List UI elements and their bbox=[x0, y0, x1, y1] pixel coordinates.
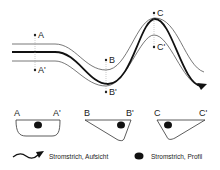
flow-arrow-icon bbox=[197, 83, 207, 90]
point-c-prime-marker bbox=[153, 46, 155, 48]
point-a-prime-label: A' bbox=[38, 65, 46, 75]
section-b-left-label: B bbox=[84, 108, 90, 118]
cross-section-c: C C' bbox=[154, 108, 207, 139]
plan-view: A A' B B' C C' bbox=[12, 8, 207, 97]
section-b-right-label: B' bbox=[126, 108, 134, 118]
filled-ellipse-icon bbox=[135, 153, 144, 160]
point-c-label: C bbox=[157, 8, 164, 18]
legend-label-plan: Stromstrich, Aufsicht bbox=[49, 153, 108, 160]
point-c-prime-label: C' bbox=[157, 42, 165, 52]
point-c-marker bbox=[153, 12, 155, 14]
legend: Stromstrich, Aufsicht Stromstrich, Profi… bbox=[13, 151, 203, 160]
point-b-prime-marker bbox=[105, 91, 107, 93]
point-a-label: A bbox=[38, 30, 44, 40]
section-a-right-label: A' bbox=[53, 108, 61, 118]
river-diagram: A A' B B' C C' A A' B B' C C' Stromstric… bbox=[0, 0, 220, 170]
point-b-marker bbox=[105, 59, 107, 61]
point-a-prime-marker bbox=[34, 69, 36, 71]
cross-section-b: B B' bbox=[84, 108, 134, 141]
point-b-prime-label: B' bbox=[109, 87, 117, 97]
section-c-left-label: C bbox=[154, 108, 161, 118]
thalweg-profile-icon bbox=[34, 122, 42, 129]
point-b-label: B bbox=[109, 55, 115, 65]
cross-section-a: A A' bbox=[14, 108, 61, 136]
section-a-left-label: A bbox=[14, 108, 20, 118]
wavy-arrow-head-icon bbox=[36, 151, 44, 158]
thalweg-profile-icon bbox=[164, 122, 172, 129]
wavy-arrow-icon bbox=[13, 154, 38, 158]
legend-label-profile: Stromstrich, Profil bbox=[151, 153, 203, 160]
thalweg-profile-icon bbox=[117, 122, 125, 129]
section-c-profile bbox=[157, 120, 205, 139]
section-c-right-label: C' bbox=[199, 108, 207, 118]
point-a-marker bbox=[34, 34, 36, 36]
